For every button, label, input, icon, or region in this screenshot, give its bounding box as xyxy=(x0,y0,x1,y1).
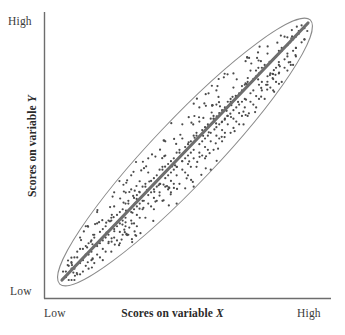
scatter-dot xyxy=(247,77,249,79)
scatter-dot xyxy=(74,275,76,277)
scatter-dot xyxy=(234,130,236,132)
scatter-dot xyxy=(179,134,181,136)
scatter-dot xyxy=(164,166,166,168)
scatter-dot xyxy=(125,233,127,235)
scatter-dot xyxy=(212,149,214,151)
scatter-dot xyxy=(113,205,115,207)
scatter-dot xyxy=(193,149,195,151)
scatter-dot xyxy=(96,253,98,255)
scatter-dot xyxy=(190,166,192,168)
scatter-dot xyxy=(286,36,288,38)
scatter-dot xyxy=(147,203,149,205)
scatter-dot xyxy=(102,248,104,250)
scatter-dot xyxy=(288,61,290,63)
scatter-dot xyxy=(76,272,78,274)
scatter-dot xyxy=(139,232,141,234)
scatter-dot xyxy=(286,53,288,55)
scatter-dot xyxy=(193,186,195,188)
scatter-dot xyxy=(118,244,120,246)
scatter-dot xyxy=(244,60,246,62)
scatter-dot xyxy=(235,106,237,108)
scatter-dot xyxy=(248,112,250,114)
scatter-dot xyxy=(112,196,114,198)
scatter-dot xyxy=(168,204,170,206)
scatter-dot xyxy=(226,73,228,75)
scatter-dot xyxy=(292,50,294,52)
scatter-dot xyxy=(215,142,217,144)
scatter-dot xyxy=(150,191,152,193)
scatter-dot xyxy=(170,191,172,193)
scatter-dot xyxy=(207,92,209,94)
scatter-dot xyxy=(176,174,178,176)
scatter-dot xyxy=(278,83,280,85)
scatter-dot xyxy=(276,42,278,44)
scatter-dot xyxy=(184,171,186,173)
scatter-dot xyxy=(221,129,223,131)
scatter-dot xyxy=(113,230,115,232)
scatter-dot xyxy=(90,241,92,243)
scatter-dot xyxy=(178,152,180,154)
scatter-dot xyxy=(135,185,137,187)
scatter-dot xyxy=(173,138,175,140)
scatter-dot xyxy=(99,256,101,258)
scatter-dot xyxy=(265,84,267,86)
scatter-dot xyxy=(110,217,112,219)
scatter-dot xyxy=(181,137,183,139)
scatter-dot xyxy=(273,69,275,71)
scatter-dot xyxy=(257,59,259,61)
scatter-dot xyxy=(70,257,72,259)
plot-canvas xyxy=(0,0,345,335)
scatter-dot xyxy=(218,101,220,103)
scatter-dot xyxy=(242,111,244,113)
scatter-dot xyxy=(252,89,254,91)
scatter-dot xyxy=(258,46,260,48)
scatter-dot xyxy=(154,155,156,157)
scatter-dot xyxy=(133,222,135,224)
scatter-dot xyxy=(92,234,94,236)
scatter-dot xyxy=(139,217,141,219)
scatter-dot xyxy=(292,64,294,66)
scatter-dot xyxy=(238,103,240,105)
scatter-dot xyxy=(119,231,121,233)
scatter-dot xyxy=(247,81,249,83)
scatter-dot xyxy=(122,201,124,203)
scatter-dot xyxy=(163,140,165,142)
scatter-dot xyxy=(273,91,275,93)
scatter-dot xyxy=(211,85,213,87)
scatter-dot xyxy=(147,194,149,196)
scatter-dot xyxy=(303,38,305,40)
scatter-dot xyxy=(207,135,209,137)
scatter-dot xyxy=(187,154,189,156)
scatter-dot xyxy=(198,116,200,118)
scatter-dot xyxy=(210,169,212,171)
scatter-dot xyxy=(258,84,260,86)
scatter-dot xyxy=(136,205,138,207)
scatter-dot xyxy=(105,251,107,253)
scatter-dot xyxy=(190,122,192,124)
scatter-dot xyxy=(130,219,132,221)
scatter-dot xyxy=(93,262,95,264)
scatter-dot xyxy=(198,152,200,154)
scatter-dot xyxy=(88,268,90,270)
scatter-dot xyxy=(144,217,146,219)
scatter-dot xyxy=(85,265,87,267)
scatter-dot xyxy=(249,92,251,94)
scatter-dot xyxy=(212,115,214,117)
scatter-dot xyxy=(249,70,251,72)
scatter-dot xyxy=(201,154,203,156)
scatter-dot xyxy=(272,77,274,79)
scatter-dot xyxy=(176,188,178,190)
scatter-dot xyxy=(96,209,98,211)
scatter-dot xyxy=(148,180,150,182)
scatter-dot xyxy=(102,228,104,230)
scatter-dot xyxy=(207,149,209,151)
scatter-dot xyxy=(153,191,155,193)
scatter-dot xyxy=(161,169,163,171)
scatter-dot xyxy=(181,160,183,162)
scatter-dot xyxy=(260,60,262,62)
scatter-dot xyxy=(143,167,145,169)
scatter-dot xyxy=(196,161,198,163)
scatter-dot xyxy=(170,180,172,182)
scatter-dot xyxy=(133,197,135,199)
scatter-dot xyxy=(286,70,288,72)
